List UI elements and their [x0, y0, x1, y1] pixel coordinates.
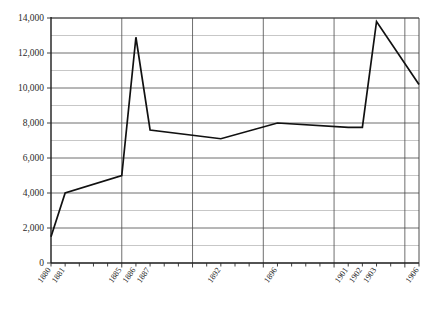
y-axis-tick-label: 6,000 [23, 153, 45, 163]
x-axis-tick-labels: 1880188118851886188718921896190119021903… [36, 266, 421, 285]
x-axis-tick-label: 1896 [262, 266, 279, 285]
x-axis-tick-label: 1887 [135, 266, 152, 285]
y-axis-tick-label: 4,000 [23, 188, 45, 198]
y-axis-tick-label: 14,000 [18, 13, 44, 23]
minor-gridlines [51, 36, 419, 246]
y-axis-tick-label: 10,000 [18, 83, 44, 93]
y-axis-tick-label: 2,000 [23, 223, 45, 233]
x-axis-tick-label: 1903 [361, 266, 378, 285]
x-axis-tick-label: 1892 [206, 266, 223, 285]
plot-frame [51, 17, 419, 263]
line-chart: 02,0004,0006,0008,00010,00012,00014,000 … [0, 0, 441, 309]
y-axis-tick-labels: 02,0004,0006,0008,00010,00012,00014,000 [18, 13, 44, 268]
x-axis-tick-label: 1902 [347, 266, 364, 285]
x-axis-tick-label: 1880 [36, 266, 53, 285]
x-axis-tick-label: 1886 [121, 266, 138, 285]
y-axis-tick-label: 8,000 [23, 118, 45, 128]
x-axis-tick-label: 1906 [404, 266, 421, 285]
y-axis-tick-label: 12,000 [18, 48, 44, 58]
x-axis-tick-label: 1885 [107, 266, 124, 285]
x-axis-tick-label: 1901 [333, 266, 350, 285]
data-series [51, 22, 419, 237]
data-line-series-1 [51, 22, 419, 237]
x-axis-tick-label: 1881 [50, 266, 67, 285]
chart-canvas: 02,0004,0006,0008,00010,00012,00014,000 … [0, 0, 441, 309]
y-axis-tick-label: 0 [39, 258, 44, 268]
